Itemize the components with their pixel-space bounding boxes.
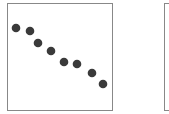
data-point [99,80,108,89]
data-point [26,27,35,36]
data-point [73,60,82,69]
data-point [34,39,43,48]
data-point [47,47,56,56]
scatter-points [0,0,169,114]
data-point [12,24,21,33]
data-point [60,58,69,67]
data-point [88,69,97,78]
